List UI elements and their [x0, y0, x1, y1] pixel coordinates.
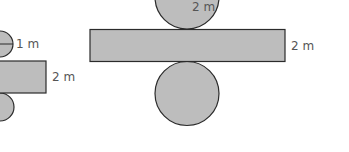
small-bottom-circle [0, 93, 14, 121]
small-radius-label: 1 m [16, 37, 39, 51]
large-bottom-circle [155, 62, 219, 126]
large-lateral-rectangle [90, 30, 285, 62]
large-radius-label: 2 m [192, 0, 215, 14]
cylinder-nets-diagram: 1 m 2 m 2 m 2 m [0, 0, 349, 152]
small-cylinder-net: 1 m 2 m [0, 31, 75, 121]
large-height-label: 2 m [291, 39, 314, 53]
large-cylinder-net: 2 m 2 m [90, 0, 314, 126]
small-lateral-rectangle [0, 61, 46, 93]
small-height-label: 2 m [52, 70, 75, 84]
